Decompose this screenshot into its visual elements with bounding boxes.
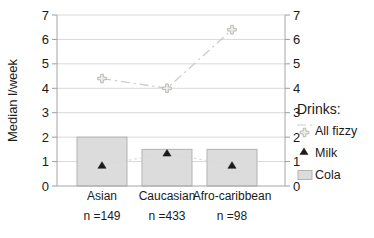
legend-items: All fizzyMilkCola bbox=[297, 122, 373, 183]
left-tick-label: 6 bbox=[42, 32, 49, 47]
fizzy-marker bbox=[163, 84, 172, 93]
fizzy-marker bbox=[228, 25, 237, 34]
all-fizzy-legend-marker-icon bbox=[297, 122, 315, 139]
right-tick-label: 7 bbox=[293, 8, 300, 23]
left-tick-label: 7 bbox=[42, 8, 49, 23]
legend-label-all-fizzy: All fizzy bbox=[315, 124, 357, 138]
legend-label-cola: Cola bbox=[315, 168, 341, 182]
category-n-label: n =433 bbox=[148, 209, 185, 223]
category-n-label: n =98 bbox=[217, 209, 248, 223]
category-label: Asian bbox=[87, 189, 117, 203]
legend-title: Drinks: bbox=[297, 101, 373, 117]
category-label: Caucasian bbox=[139, 189, 196, 203]
right-tick-label: 4 bbox=[293, 81, 300, 96]
chart-figure: 0011223344556677Median l/weekAsiann =149… bbox=[0, 0, 374, 238]
y-axis-title: Median l/week bbox=[5, 58, 20, 142]
left-tick-label: 0 bbox=[42, 179, 49, 194]
legend-item-milk: Milk bbox=[297, 144, 373, 161]
chart-legend: Drinks: All fizzyMilkCola bbox=[297, 101, 373, 188]
left-tick-label: 2 bbox=[42, 130, 49, 145]
right-tick-label: 5 bbox=[293, 56, 300, 71]
line-all-fizzy bbox=[102, 30, 232, 89]
category-label: Afro-caribbean bbox=[193, 189, 272, 203]
legend-item-all-fizzy: All fizzy bbox=[297, 122, 373, 139]
milk-legend-marker-icon bbox=[297, 144, 315, 161]
cola-legend-marker-icon bbox=[297, 166, 315, 183]
cola-swatch bbox=[298, 171, 312, 180]
fizzy-marker bbox=[300, 128, 309, 137]
fizzy-marker bbox=[98, 74, 107, 83]
milk-marker bbox=[300, 148, 308, 155]
left-tick-label: 1 bbox=[42, 154, 49, 169]
legend-label-milk: Milk bbox=[315, 146, 337, 160]
category-n-label: n =149 bbox=[83, 209, 120, 223]
legend-item-cola: Cola bbox=[297, 166, 373, 183]
left-tick-label: 5 bbox=[42, 56, 49, 71]
left-tick-label: 4 bbox=[42, 81, 49, 96]
right-tick-label: 6 bbox=[293, 32, 300, 47]
left-tick-label: 3 bbox=[42, 105, 49, 120]
